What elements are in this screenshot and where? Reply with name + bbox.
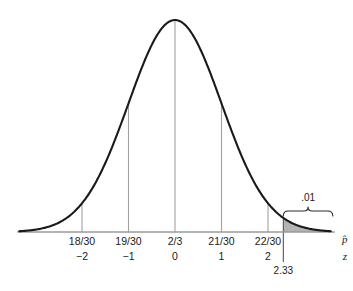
- critical-value-label: 2.33: [274, 265, 294, 276]
- z-label-0: −2: [76, 250, 88, 262]
- tick-lines-group: [82, 20, 283, 262]
- p-hat-label-2: 2/3: [168, 235, 183, 247]
- z-tick-labels: −2−1012: [76, 250, 271, 262]
- tail-area-label: .01: [301, 192, 315, 203]
- normal-distribution-chart: .01 18/3019/302/321/3022/30 −2−1012 2.33…: [0, 0, 353, 291]
- tail-area-brace: [283, 207, 333, 216]
- z-label-4: 2: [265, 250, 271, 262]
- z-axis-label: z: [342, 250, 348, 262]
- z-label-1: −1: [123, 250, 135, 262]
- p-hat-label-0: 18/30: [69, 235, 95, 247]
- normal-curve-figure: .01 18/3019/302/321/3022/30 −2−1012 2.33…: [0, 0, 353, 291]
- p-hat-label-3: 21/30: [208, 235, 234, 247]
- p-hat-axis-label: p̂: [341, 233, 348, 245]
- brace-group: .01: [283, 192, 333, 216]
- p-hat-tick-labels: 18/3019/302/321/3022/30: [69, 235, 281, 247]
- p-hat-label-4: 22/30: [255, 235, 281, 247]
- z-label-2: 0: [172, 250, 178, 262]
- p-hat-label-1: 19/30: [115, 235, 141, 247]
- z-label-3: 1: [219, 250, 225, 262]
